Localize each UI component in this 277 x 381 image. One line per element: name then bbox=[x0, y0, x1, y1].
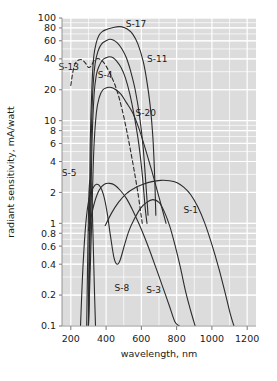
x-tick-label: 600 bbox=[132, 333, 150, 344]
series-label-s-8: S-8 bbox=[115, 283, 130, 293]
series-label-s-11: S-11 bbox=[147, 54, 167, 64]
y-tick-label: 60 bbox=[44, 35, 56, 46]
y-tick-label: 0.2 bbox=[41, 289, 56, 300]
x-tick-label: 400 bbox=[97, 333, 115, 344]
y-tick-label: 6 bbox=[50, 138, 56, 149]
series-label-s-3: S-3 bbox=[146, 285, 161, 295]
x-tick-label: 800 bbox=[168, 333, 186, 344]
x-axis-title: wavelength, nm bbox=[121, 348, 198, 359]
y-tick-label: 8 bbox=[50, 125, 56, 136]
y-tick-label: 1 bbox=[50, 218, 56, 229]
y-axis-title: radiant sensitivity, mA/watt bbox=[5, 106, 16, 238]
y-tick-label: 20 bbox=[44, 84, 56, 95]
series-label-s-1: S-1 bbox=[183, 205, 198, 215]
y-tick-label: 10 bbox=[44, 115, 56, 126]
spectral-response-chart: 0.10.20.40.60.81246810204060801002004006… bbox=[0, 0, 277, 381]
y-tick-label: 80 bbox=[44, 22, 56, 33]
y-tick-label: 0.8 bbox=[41, 228, 56, 239]
series-label-s-5: S-5 bbox=[62, 168, 77, 178]
y-tick-label: 0.1 bbox=[41, 320, 56, 331]
y-tick-label: 2 bbox=[50, 187, 56, 198]
y-tick-label: 40 bbox=[44, 53, 56, 64]
x-tick-label: 200 bbox=[62, 333, 80, 344]
y-tick-label: 100 bbox=[38, 12, 56, 23]
series-label-s-20: S-20 bbox=[136, 108, 157, 118]
y-tick-label: 0.4 bbox=[41, 259, 56, 270]
y-tick-label: 0.6 bbox=[41, 241, 56, 252]
x-tick-label: 1000 bbox=[200, 333, 224, 344]
x-tick-label: 1200 bbox=[235, 333, 259, 344]
chart-page: 0.10.20.40.60.81246810204060801002004006… bbox=[0, 0, 277, 381]
series-label-s-4: S-4 bbox=[98, 70, 113, 80]
y-tick-label: 4 bbox=[50, 156, 56, 167]
series-label-s-17: S-17 bbox=[126, 19, 146, 29]
